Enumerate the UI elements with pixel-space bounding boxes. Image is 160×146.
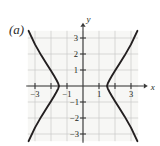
x-axis-label: x: [150, 82, 155, 92]
y-tick-label: −3: [70, 129, 79, 139]
x-tick-label: −3: [30, 89, 39, 99]
x-tick-label: 1: [97, 89, 101, 99]
x-axis-arrowhead: [144, 83, 148, 88]
coordinate-plot: −3−113321−1−2−3 xy: [0, 0, 160, 146]
y-tick-label: 3: [74, 33, 78, 43]
y-tick-label: 2: [74, 49, 78, 59]
y-axis-arrowhead: [80, 23, 85, 27]
y-tick-label: 1: [74, 65, 78, 75]
x-tick-label: 3: [129, 89, 133, 99]
y-axis-label: y: [86, 14, 91, 24]
y-tick-label: −1: [70, 97, 79, 107]
figure-panel: (a) −3−113321−1−2−3 xy: [0, 0, 160, 146]
y-tick-label: −2: [70, 113, 79, 123]
